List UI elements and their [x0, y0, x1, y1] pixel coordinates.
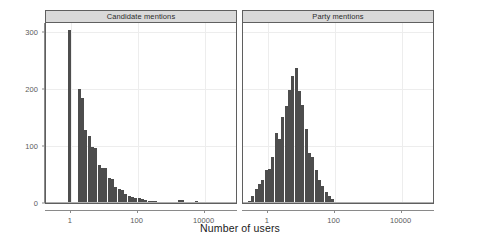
- gridline-horizontal: [243, 89, 433, 90]
- x-tick-mark: [401, 210, 402, 213]
- x-tick-mark: [137, 210, 138, 213]
- y-axis: 0100200300: [0, 0, 45, 241]
- x-axis-title: Number of users: [0, 222, 480, 234]
- panel-strip-title: Party mentions: [312, 12, 363, 21]
- y-tick-label: 0: [34, 199, 38, 208]
- panel-strip: Candidate mentions: [45, 10, 237, 23]
- gridline-vertical: [402, 23, 403, 203]
- panel-party-mentions: Party mentions: [242, 10, 434, 204]
- panel-strip-title: Candidate mentions: [107, 12, 176, 21]
- x-tick-mark: [334, 210, 335, 213]
- gridline-horizontal: [243, 146, 433, 147]
- gridline-horizontal: [46, 146, 236, 147]
- gridline-vertical: [205, 23, 206, 203]
- x-tick-mark: [204, 210, 205, 213]
- x-axis-line: [242, 210, 434, 211]
- plot-area: [45, 23, 237, 204]
- x-tick-mark: [267, 210, 268, 213]
- plot-baseline: [46, 202, 236, 203]
- plot-area: [242, 23, 434, 204]
- gridline-horizontal: [243, 32, 433, 33]
- gridline-horizontal: [46, 89, 236, 90]
- gridline-vertical: [138, 23, 139, 203]
- y-tick-label: 200: [25, 84, 38, 93]
- gridline-vertical: [335, 23, 336, 203]
- x-axis-line: [45, 210, 237, 211]
- histogram-bar: [68, 30, 71, 203]
- gridline-horizontal: [46, 32, 236, 33]
- y-tick-label: 300: [25, 27, 38, 36]
- x-tick-mark: [70, 210, 71, 213]
- y-tick-label: 100: [25, 141, 38, 150]
- gridline-vertical: [71, 23, 72, 203]
- plot-baseline: [243, 202, 433, 203]
- panel-candidate-mentions: Candidate mentions: [45, 10, 237, 204]
- panel-strip: Party mentions: [242, 10, 434, 23]
- figure-root: 0100200300 Candidate mentionsParty menti…: [0, 0, 480, 241]
